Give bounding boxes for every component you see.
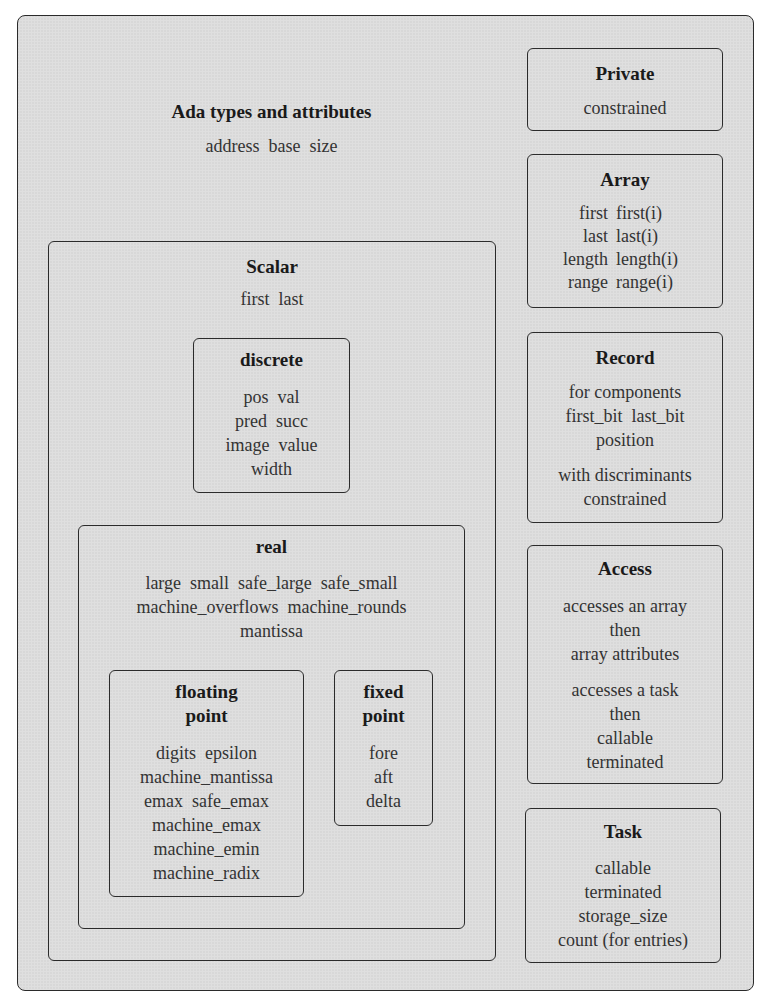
real-line: mantissa xyxy=(79,620,464,643)
discrete-line: image value xyxy=(194,434,349,457)
record-line: first_bit last_bit xyxy=(528,405,722,428)
array-box: Array first first(i) last last(i) length… xyxy=(527,154,723,308)
diagram-title-text: Ada types and attributes xyxy=(48,101,495,123)
record-line: constrained xyxy=(528,488,722,511)
discrete-box: discrete pos val pred succ image value w… xyxy=(193,338,350,493)
floating-line: machine_emin xyxy=(110,838,303,861)
task-line: storage_size xyxy=(526,905,720,928)
array-title: Array xyxy=(528,169,722,191)
task-line: callable xyxy=(526,857,720,880)
access-line: then xyxy=(528,619,722,642)
fixed-point-title-1: fixed xyxy=(335,681,432,703)
task-box: Task callable terminated storage_size co… xyxy=(525,808,721,963)
attr-last: last xyxy=(279,289,304,309)
access-title: Access xyxy=(528,558,722,580)
private-title: Private xyxy=(528,63,722,85)
floating-line: machine_radix xyxy=(110,862,303,885)
access-line: callable xyxy=(528,727,722,750)
floating-point-title-1: floating xyxy=(110,681,303,703)
record-box: Record for components first_bit last_bit… xyxy=(527,332,723,523)
floating-point-title-2: point xyxy=(110,705,303,727)
access-line: array attributes xyxy=(528,643,722,666)
discrete-line: width xyxy=(194,458,349,481)
task-line: count (for entries) xyxy=(526,929,720,952)
real-title-text: real xyxy=(79,536,464,558)
discrete-line: pred succ xyxy=(194,410,349,433)
fixed-line: fore xyxy=(335,742,432,765)
access-box: Access accesses an array then array attr… xyxy=(527,545,723,784)
discrete-line: pos val xyxy=(194,386,349,409)
task-line: terminated xyxy=(526,881,720,904)
private-box: Private constrained xyxy=(527,48,723,131)
attr-first: first xyxy=(241,289,270,309)
real-line: large small safe_large safe_small xyxy=(79,572,464,595)
floating-line: digits epsilon xyxy=(110,742,303,765)
attr-address: address xyxy=(206,136,260,156)
fixed-point-title-2: point xyxy=(335,705,432,727)
discrete-title: discrete xyxy=(194,349,349,371)
fixed-point-box: fixed point fore aft delta xyxy=(334,670,433,826)
array-row: first first(i) xyxy=(528,202,722,225)
array-row: last last(i) xyxy=(528,225,722,248)
array-rows: first first(i) last last(i) length lengt… xyxy=(528,202,722,294)
task-title: Task xyxy=(526,821,720,843)
access-line: accesses a task xyxy=(528,679,722,702)
floating-line: machine_emax xyxy=(110,814,303,837)
record-title: Record xyxy=(528,347,722,369)
private-line: constrained xyxy=(528,97,722,120)
fixed-line: delta xyxy=(335,790,432,813)
array-row: length length(i) xyxy=(528,248,722,271)
access-line: terminated xyxy=(528,751,722,774)
attr-size: size xyxy=(309,136,337,156)
access-line: accesses an array xyxy=(528,595,722,618)
floating-line: machine_mantissa xyxy=(110,766,303,789)
real-line: machine_overflows machine_rounds xyxy=(79,596,464,619)
scalar-title: Scalar xyxy=(49,256,495,278)
record-line: with discriminants xyxy=(528,464,722,487)
attr-base: base xyxy=(269,136,301,156)
access-line: then xyxy=(528,703,722,726)
record-line: position xyxy=(528,429,722,452)
scalar-attributes: first last xyxy=(49,288,495,311)
array-row: range range(i) xyxy=(528,271,722,294)
floating-point-box: floating point digits epsilon machine_ma… xyxy=(109,670,304,897)
floating-line: emax safe_emax xyxy=(110,790,303,813)
record-line: for components xyxy=(528,381,722,404)
fixed-line: aft xyxy=(335,766,432,789)
